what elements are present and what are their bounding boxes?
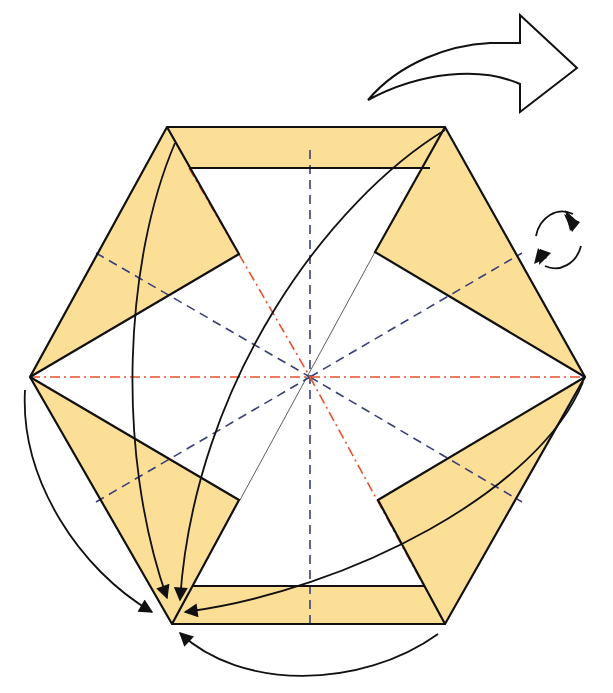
bottom-band: [172, 586, 445, 624]
rotate-arrows-icon: [534, 210, 581, 268]
arrow-from-bottom-right: [180, 633, 438, 676]
thin-crease-line: [240, 252, 375, 500]
turn-over-arrow-icon: [368, 15, 577, 112]
origami-diagram: Origami hexagon folding step: [0, 0, 613, 693]
top-band: [167, 127, 445, 168]
